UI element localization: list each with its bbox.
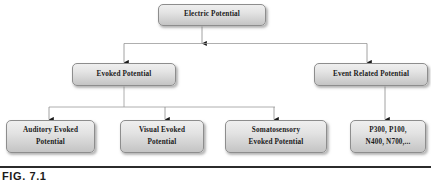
node-visual-evoked-potential-label: Visual Evoked Potential (123, 125, 201, 147)
node-evoked-potential: Evoked Potential (72, 63, 176, 86)
figure-container: Electric Potential Evoked Potential Even… (0, 0, 431, 185)
node-somatosensory-evoked-potential: Somatosensory Evoked Potential (225, 120, 327, 153)
diagram-connectors (0, 0, 431, 185)
node-auditory-evoked-potential-line1: Auditory Evoked (9, 125, 92, 136)
figure-caption: FIG. 7.1 (2, 170, 47, 182)
node-erp-components-line1: P300, P100, (353, 125, 423, 136)
node-somatosensory-evoked-potential-line2: Evoked Potential (228, 137, 324, 148)
node-electric-potential-label: Electric Potential (161, 9, 263, 20)
node-visual-evoked-potential: Visual Evoked Potential (120, 120, 204, 153)
node-erp-components-line2: N400, N700,... (353, 137, 423, 148)
caption-divider (0, 166, 431, 168)
node-erp-components-label: P300, P100, N400, N700,... (353, 125, 423, 147)
node-somatosensory-evoked-potential-label: Somatosensory Evoked Potential (228, 125, 324, 147)
node-event-related-potential-label: Event Related Potential (317, 69, 425, 80)
node-visual-evoked-potential-line1: Visual Evoked (123, 125, 201, 136)
node-visual-evoked-potential-line2: Potential (123, 137, 201, 148)
node-electric-potential: Electric Potential (158, 4, 266, 26)
node-auditory-evoked-potential-label: Auditory Evoked Potential (9, 125, 92, 147)
node-event-related-potential: Event Related Potential (314, 63, 428, 86)
node-erp-components: P300, P100, N400, N700,... (350, 120, 426, 153)
node-evoked-potential-label: Evoked Potential (75, 69, 173, 80)
node-auditory-evoked-potential-line2: Potential (9, 137, 92, 148)
node-somatosensory-evoked-potential-line1: Somatosensory (228, 125, 324, 136)
node-auditory-evoked-potential: Auditory Evoked Potential (6, 120, 95, 153)
